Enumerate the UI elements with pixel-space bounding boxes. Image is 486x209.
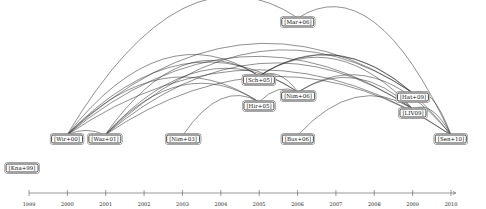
year-tick-label: 2002 <box>138 201 151 207</box>
year-tick-label: 2010 <box>445 201 458 207</box>
timeline-axis <box>29 190 456 196</box>
citation-edge <box>67 0 298 135</box>
citation-node-waz01: [Waz+01] <box>88 135 121 144</box>
year-tick-label: 2003 <box>176 201 189 207</box>
citation-edge <box>105 50 413 135</box>
citation-node-bus06: [Bus+06] <box>282 135 314 144</box>
citation-node-nim06: [Nim+06] <box>281 92 315 101</box>
year-tick-label: 2007 <box>330 201 343 207</box>
year-tick-label: 2008 <box>368 201 381 207</box>
citation-edge <box>67 77 259 135</box>
citation-edge <box>298 96 413 135</box>
citation-edges <box>67 0 451 135</box>
citation-node-mar06: [Mar+06] <box>281 18 314 27</box>
citation-node-hat09: [Hat+09] <box>397 93 429 102</box>
year-tick-label: 2001 <box>99 201 112 207</box>
year-tick-label: 2009 <box>406 201 419 207</box>
citation-node-liv09: [LIV09] <box>399 109 426 118</box>
year-tick-label: 1999 <box>23 201 36 207</box>
citation-edge <box>67 54 259 135</box>
citation-node-nim03: [Nim+03] <box>166 135 200 144</box>
year-tick-label: 2004 <box>214 201 227 207</box>
year-tick-label: 2005 <box>253 201 266 207</box>
year-tick-label: 2000 <box>61 201 74 207</box>
citation-edge <box>298 75 451 135</box>
citation-edge <box>105 60 259 135</box>
citation-node-hir05: [Hir+05] <box>243 102 274 111</box>
citation-node-sch05: [Sch+05] <box>243 76 275 85</box>
citation-node-kna99: [Kna+99] <box>6 164 39 173</box>
citation-edge <box>105 83 259 135</box>
citation-edge <box>105 76 451 135</box>
citation-node-sen10: [Sen+10] <box>435 135 467 144</box>
citation-node-wir00: [Wir+00] <box>51 135 83 144</box>
year-tick-label: 2006 <box>291 201 304 207</box>
